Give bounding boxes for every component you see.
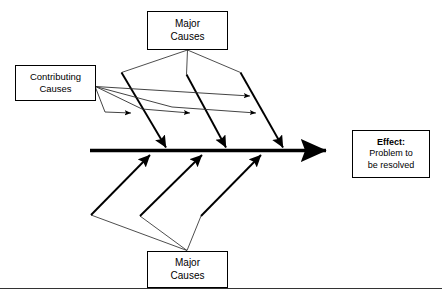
box-effect-line2: Problem to [369,148,413,160]
box-major-causes-bottom-line1: Major [175,257,200,270]
box-effect-line1: Effect: [377,137,405,149]
box-contributing-causes-line2: Causes [39,83,71,95]
contributing-arrow-1 [96,87,251,97]
box-effect-line3: be resolved [368,160,415,172]
box-major-causes-top-line1: Major [175,18,200,31]
lower-box-connectors [91,215,201,251]
fishbone-diagram-canvas: Major Causes Contributing Causes Effect:… [0,0,442,294]
upper-bone-3 [241,73,284,148]
box-contributing-causes[interactable]: Contributing Causes [15,65,96,101]
box-effect[interactable]: Effect: Problem to be resolved [352,130,430,178]
box-major-causes-bottom-line2: Causes [171,270,205,283]
lower-bone-1 [91,155,150,215]
lower-bone-3 [201,155,261,216]
contributing-cause-arrows [96,87,257,114]
upper-bone-2 [187,75,227,148]
box-major-causes-top-line2: Causes [171,31,205,44]
box-major-causes-bottom[interactable]: Major Causes [147,251,228,288]
lower-bone-2 [140,155,202,216]
contributing-arrow-2 [96,87,257,114]
bottom-divider-rule [0,288,442,289]
box-major-causes-top[interactable]: Major Causes [147,11,228,50]
lower-major-bones [91,155,261,216]
upper-major-bones [122,73,284,148]
upper-box-connectors [122,50,241,75]
box-contributing-causes-line1: Contributing [30,71,81,83]
